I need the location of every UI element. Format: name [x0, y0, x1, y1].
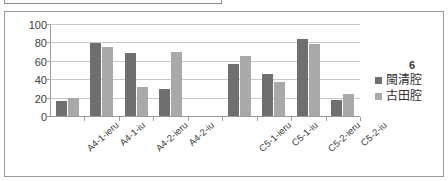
- bar-group: [331, 23, 365, 116]
- legend-item[interactable]: 閩清腔: [375, 74, 443, 87]
- plot-area: [50, 24, 360, 117]
- y-axis-tick: [46, 42, 50, 43]
- legend-item-label: 閩清腔: [386, 74, 422, 87]
- bar[interactable]: [262, 74, 273, 116]
- y-axis-tick-label: 60: [35, 56, 47, 67]
- bar[interactable]: [171, 52, 182, 116]
- y-axis-tick: [46, 61, 50, 62]
- y-axis-tick: [46, 24, 50, 25]
- bar[interactable]: [102, 47, 113, 116]
- y-axis-line: [50, 24, 51, 117]
- x-axis-category-label: C5-1-ieru: [258, 120, 294, 154]
- x-axis-category-label: C5-2-iu: [359, 120, 389, 148]
- bar-group: [159, 23, 193, 116]
- bar[interactable]: [297, 39, 308, 116]
- y-axis-tick: [46, 116, 50, 117]
- legend-swatch-icon: [375, 93, 382, 100]
- y-axis-tick-label: 80: [35, 38, 47, 49]
- legend-title: 6: [381, 59, 443, 71]
- y-axis-tick-label: 0: [41, 112, 47, 123]
- bar[interactable]: [90, 43, 101, 116]
- bar[interactable]: [125, 53, 136, 116]
- bar-group: [90, 23, 124, 116]
- bar[interactable]: [228, 64, 239, 116]
- x-axis-category-label: A4-2-iu: [186, 120, 215, 148]
- bar-group: [125, 23, 159, 116]
- cropped-toolbar-strip: [4, 0, 222, 4]
- bar[interactable]: [56, 101, 67, 116]
- x-axis-line: [50, 116, 360, 117]
- bar[interactable]: [240, 56, 251, 116]
- bar-group: [194, 23, 228, 116]
- bar-group: [56, 23, 90, 116]
- bar[interactable]: [137, 87, 148, 116]
- bar-group: [228, 23, 262, 116]
- x-axis-category-label: A4-2-ieru: [154, 120, 190, 154]
- legend-item[interactable]: 古田腔: [375, 90, 443, 103]
- chart-legend: 6 閩清腔 古田腔: [375, 59, 443, 106]
- bar[interactable]: [331, 100, 342, 116]
- y-axis-tick: [46, 98, 50, 99]
- bar[interactable]: [309, 44, 320, 116]
- bar-group: [297, 23, 331, 116]
- bar-group: [262, 23, 296, 116]
- bar[interactable]: [159, 89, 170, 116]
- x-axis-category-label: C5-2-ieru: [327, 120, 363, 154]
- y-axis-tick-label: 20: [35, 93, 47, 104]
- y-axis-tick-label: 40: [35, 75, 47, 86]
- legend-swatch-icon: [375, 77, 382, 84]
- y-axis-tick-labels: 020406080100: [15, 24, 47, 117]
- bar[interactable]: [343, 94, 354, 116]
- y-axis-tick: [46, 79, 50, 80]
- legend-item-label: 古田腔: [386, 90, 422, 103]
- x-axis-category-labels: A4-1-ieruA4-1-iuA4-2-ieruA4-2-iuC5-1-ier…: [50, 118, 360, 176]
- y-axis-tick-label: 100: [29, 20, 47, 31]
- x-axis-tick: [360, 117, 361, 121]
- x-axis-category-label: A4-1-iu: [118, 120, 147, 148]
- bar[interactable]: [274, 82, 285, 116]
- bar[interactable]: [68, 98, 79, 116]
- x-axis-category-label: A4-1-ieru: [85, 120, 121, 154]
- chart-container: 020406080100 A4-1-ieruA4-1-iuA4-2-ieruA4…: [4, 11, 444, 177]
- x-axis-category-label: C5-1-iu: [290, 120, 320, 148]
